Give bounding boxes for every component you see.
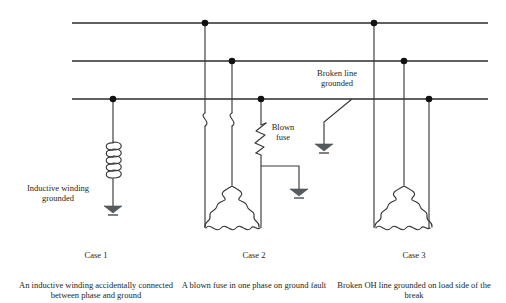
break-jog-case2-b xyxy=(230,113,234,126)
case-3-description: Broken OH line grounded on load side of … xyxy=(328,280,500,300)
node-case1-bottom xyxy=(110,96,117,103)
case-2-title: Case 2 xyxy=(180,250,328,260)
node-case3-top xyxy=(371,20,378,27)
case-3-caption: Case 3 Broken OH line grounded on load s… xyxy=(328,231,500,303)
case-3-title: Case 3 xyxy=(328,250,500,260)
case-2-description: A blown fuse in one phase on ground faul… xyxy=(180,280,328,290)
broken-line-drop xyxy=(324,99,352,145)
case-1-caption: Case 1 An inductive winding accidentally… xyxy=(6,231,186,303)
annotation-broken-line-grounded: Broken line grounded xyxy=(300,68,374,88)
delta-winding-case3 xyxy=(375,186,432,230)
annotation-inductive-winding-grounded: Inductive winding grounded xyxy=(6,183,110,203)
inductor-coil xyxy=(106,142,121,178)
delta-winding-case2 xyxy=(205,185,261,230)
broken-line-grounded-circuit xyxy=(315,99,352,153)
break-jog-case2-a xyxy=(203,113,207,126)
ground-symbol-case1 xyxy=(104,206,122,215)
node-case2-middle xyxy=(229,58,236,65)
phase-line-group xyxy=(72,23,488,99)
schematic-figure: Inductive winding grounded Blown fuse Br… xyxy=(0,0,506,303)
ground-symbol-broken-line xyxy=(315,144,333,153)
ground-symbol-case2 xyxy=(290,189,308,198)
case-2-caption: Case 2 A blown fuse in one phase on grou… xyxy=(180,231,328,303)
node-case2-top xyxy=(202,20,209,27)
node-case2-bottom xyxy=(258,96,265,103)
node-case3-middle xyxy=(401,58,408,65)
case-3-circuit xyxy=(374,23,432,230)
case2-ground-branch xyxy=(261,166,299,190)
annotation-blown-fuse: Blown fuse xyxy=(262,122,304,142)
node-case3-bottom xyxy=(426,96,433,103)
case-1-description: An inductive winding accidentally connec… xyxy=(6,280,186,300)
case-1-title: Case 1 xyxy=(6,250,186,260)
